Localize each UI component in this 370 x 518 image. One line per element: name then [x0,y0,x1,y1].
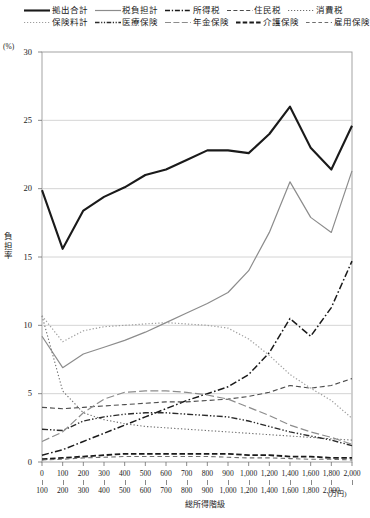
x-tick-connector [269,480,270,485]
x-tick-connector [83,480,84,485]
x-tick-connector [166,480,167,485]
y-tick-label: 5 [8,389,32,398]
x-tick-label-lower-bound: 2,000 [335,470,369,478]
y-tick-label: 30 [8,48,32,57]
x-tick-connector [145,480,146,485]
x-tick-connector [125,480,126,485]
y-tick-label: 15 [8,253,32,262]
x-tick-connector [331,480,332,485]
x-axis-title: 総所得階級 [185,498,225,509]
x-tick-connector [249,480,250,485]
x-tick-connector [290,480,291,485]
x-tick-connector [207,480,208,485]
x-tick-connector [352,480,353,485]
x-tick-connector [104,480,105,485]
x-tick-connector [42,480,43,485]
y-tick-label: 20 [8,184,32,193]
x-axis-unit: (万円) [328,488,347,498]
x-tick-connector [63,480,64,485]
x-tick-connector [311,480,312,485]
x-tick-connector [187,480,188,485]
y-tick-label: 25 [8,116,32,125]
y-tick-label: 10 [8,321,32,330]
y-tick-label: 0 [8,458,32,467]
x-tick-connector [228,480,229,485]
